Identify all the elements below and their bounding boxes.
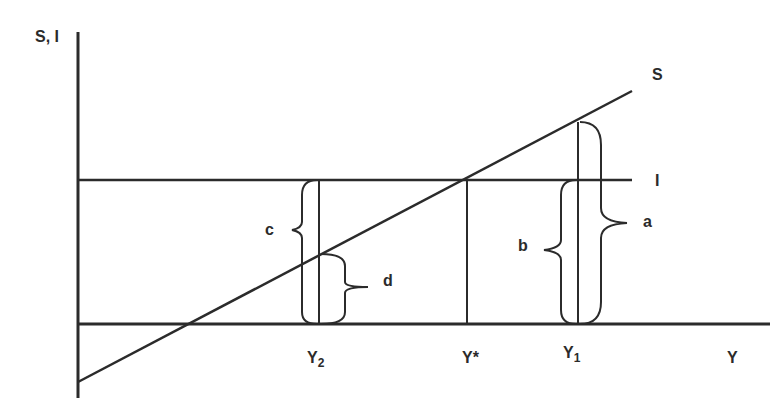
brace-d	[321, 254, 368, 324]
brace-b	[544, 180, 576, 324]
marker-y1: Y1	[563, 345, 580, 364]
marker-y-star: Y*	[462, 350, 479, 366]
diagram-canvas	[0, 0, 779, 413]
saving-curve-label: S	[652, 67, 663, 83]
brace-label-d: d	[383, 273, 393, 289]
investment-curve-label: I	[655, 173, 659, 189]
x-axis-label: Y	[727, 350, 738, 366]
brace-a	[580, 122, 627, 324]
brace-label-a: a	[643, 214, 652, 230]
brace-label-c: c	[265, 222, 274, 238]
brace-label-b: b	[518, 238, 528, 254]
y-axis-label: S, I	[35, 29, 59, 45]
marker-y2: Y2	[307, 350, 324, 369]
brace-c	[292, 180, 317, 324]
saving-line	[78, 91, 632, 382]
